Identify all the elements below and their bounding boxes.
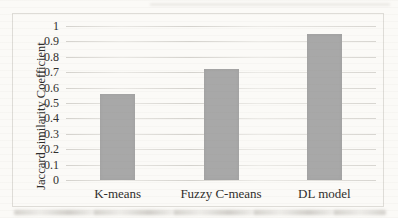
scan-artifact-bottom [14, 210, 386, 215]
x-category-label: Fuzzy C-means [161, 186, 281, 202]
bar-dl-model [307, 34, 342, 180]
x-category-label: K-means [58, 186, 178, 202]
x-category-label: DL model [264, 186, 384, 202]
y-axis-title: Jaccard similarity Coefficient [34, 36, 49, 196]
bar-k-means [100, 94, 135, 180]
scan-artifact-top [150, 3, 390, 6]
chart-area: 10.90.80.70.60.50.40.30.20.10 Jaccard si… [12, 13, 384, 207]
bar-fuzzy-c-means [204, 69, 239, 180]
y-tick-label: 1 [19, 20, 59, 32]
gridline [66, 26, 376, 27]
gridline [66, 180, 376, 181]
scanned-figure-page: 10.90.80.70.60.50.40.30.20.10 Jaccard si… [0, 0, 398, 218]
